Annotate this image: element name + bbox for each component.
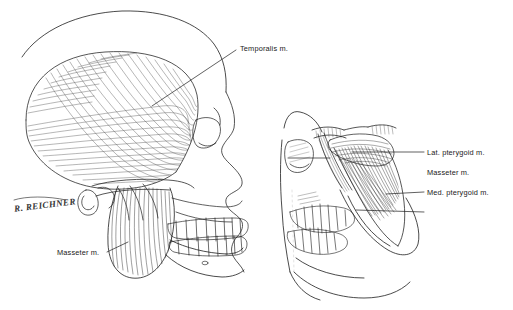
facial-profile	[214, 92, 244, 272]
right-condyle-hatching	[298, 192, 320, 204]
leader-line-med-pterygoid	[356, 210, 424, 212]
label-lat-pterygoid: Lat. pterygoid m.	[427, 148, 485, 157]
right-orbit-hatching	[289, 143, 310, 162]
external-ear-region	[78, 187, 115, 215]
masseter-muscle-outline	[108, 186, 175, 278]
label-temporalis: Temporalis m.	[240, 44, 288, 53]
right-temporalis-hatching	[319, 136, 349, 192]
temporalis-striations	[28, 53, 197, 187]
right-mandible-body	[294, 258, 410, 298]
label-masseter-left: Masseter m.	[57, 248, 99, 257]
cut-zygomatic-arch	[312, 125, 396, 138]
right-temporalis-insertion	[318, 133, 352, 190]
right-upper-teeth	[290, 204, 355, 233]
masseter-striations	[112, 188, 172, 275]
label-masseter-right: Masseter m.	[427, 168, 469, 177]
label-med-pterygoid: Med. pterygoid m.	[427, 188, 489, 197]
leader-line-temporalis	[152, 50, 236, 106]
anatomy-plate: Temporalis m. Masseter m. Lat. pterygoid…	[0, 0, 513, 310]
mental-foramen	[202, 261, 208, 265]
leader-line-masseter-left	[107, 242, 128, 252]
maxilla	[172, 198, 242, 222]
right-orbit	[285, 140, 314, 173]
zygomatic-arch	[92, 179, 194, 196]
